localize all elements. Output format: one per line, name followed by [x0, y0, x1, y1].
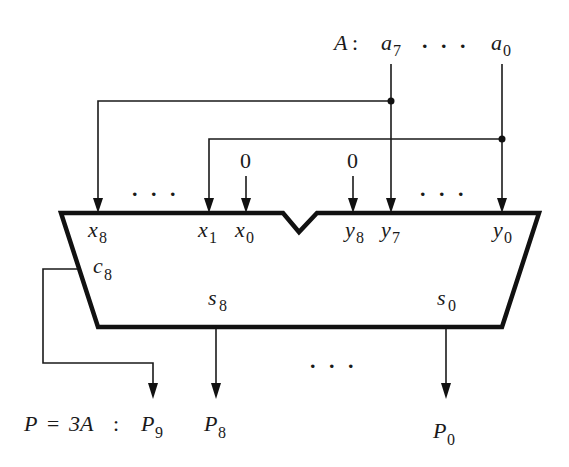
port-x8-letter: x: [87, 217, 98, 242]
bit-p9-letter: P: [140, 411, 154, 436]
bit-a0-letter: a: [491, 30, 502, 55]
output-label-group: P = 3A : P 9 P 8 P 0: [23, 411, 455, 448]
constant-inputs: 0 0: [240, 148, 358, 200]
const-zero-x0: 0: [240, 148, 251, 173]
input-separator: :: [352, 30, 358, 55]
output-ellipsis: . . .: [310, 348, 358, 373]
port-x8-sub: 8: [99, 229, 107, 246]
junction-dot-a0: [499, 136, 506, 143]
port-s8-sub: 8: [219, 297, 227, 314]
bit-p9-sub: 9: [155, 424, 163, 441]
port-y0-sub: 0: [504, 229, 512, 246]
x-input-ellipsis: . . .: [132, 176, 180, 201]
bit-p8-sub: 8: [218, 424, 226, 441]
port-y7-sub: 7: [392, 229, 400, 246]
port-s8-letter: s: [208, 285, 217, 310]
bit-p0-letter: P: [432, 418, 446, 443]
arrow-down-icon: [441, 383, 451, 399]
output-separator: :: [113, 411, 119, 436]
port-y0-letter: y: [491, 217, 503, 242]
input-ellipsis: . . .: [422, 28, 470, 53]
port-s0-sub: 0: [448, 297, 456, 314]
port-c8-letter: c: [93, 253, 103, 278]
bit-a7-sub: 7: [393, 42, 401, 59]
port-x0-letter: x: [234, 217, 245, 242]
port-x1-letter: x: [197, 217, 208, 242]
port-c8-sub: 8: [104, 266, 112, 283]
port-y8-letter: y: [343, 217, 355, 242]
y-input-ellipsis: . . .: [420, 176, 468, 201]
output-wires: [43, 269, 451, 399]
input-label-group: A : a 7 . . . a 0: [332, 28, 511, 59]
bit-p0-sub: 0: [447, 431, 455, 448]
bit-a0-sub: 0: [503, 42, 511, 59]
const-zero-y8: 0: [347, 148, 358, 173]
arrow-down-icon: [211, 383, 221, 399]
output-label: P = 3A: [23, 411, 94, 436]
bit-p8-letter: P: [203, 411, 217, 436]
port-x0-sub: 0: [246, 229, 254, 246]
port-s0-letter: s: [437, 285, 446, 310]
port-x1-sub: 1: [209, 229, 217, 246]
adder-diagram: A : a 7 . . . a 0 0 0 . . . . . . x: [0, 0, 569, 467]
input-label: A: [332, 30, 348, 55]
bit-a7-letter: a: [381, 30, 392, 55]
port-y7-letter: y: [379, 217, 391, 242]
adder-body: [61, 213, 539, 327]
arrow-down-icon: [148, 383, 158, 399]
port-y8-sub: 8: [356, 229, 364, 246]
junction-dot-a7: [388, 98, 395, 105]
